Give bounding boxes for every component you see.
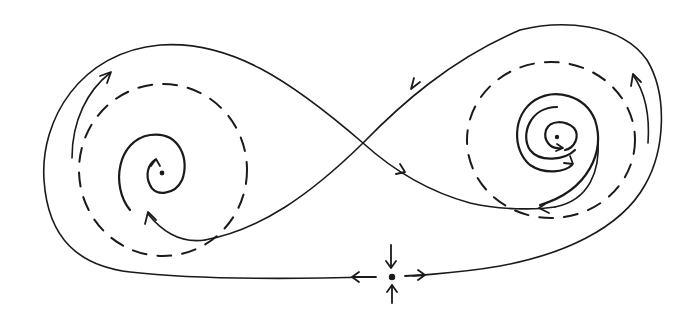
diagram-svg [0,0,699,325]
right-lobe-orbit-upper [205,25,661,276]
left-outer-flow [72,73,110,158]
left-fixed-point [160,171,165,176]
saddle-point [389,274,395,280]
phase-portrait-diagram: Hand-drawn phase portrait: figure-eight … [0,0,699,325]
left-spiral [119,135,185,210]
right-spiral-middle [526,107,575,159]
saddle-in-arrow-top [386,245,396,268]
right-limit-cycle [467,62,635,218]
saddle-out-arrow-right [405,270,425,280]
left-limit-cycle [79,84,247,256]
left-return-orbit [148,214,205,241]
saddle-in-arrow-bottom [387,285,397,303]
orbit-arrow-upper-right [411,78,420,89]
saddle-out-arrow-left [352,272,376,282]
right-fixed-point [555,135,559,139]
